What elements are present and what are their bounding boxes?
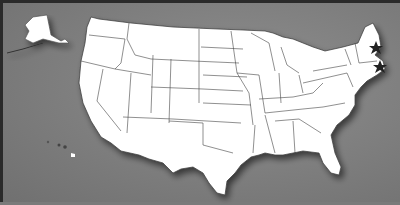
hawaii bbox=[47, 141, 75, 157]
us-map bbox=[3, 3, 400, 202]
map-frame bbox=[0, 0, 400, 202]
alaska bbox=[7, 15, 69, 53]
contiguous-us bbox=[79, 17, 385, 195]
